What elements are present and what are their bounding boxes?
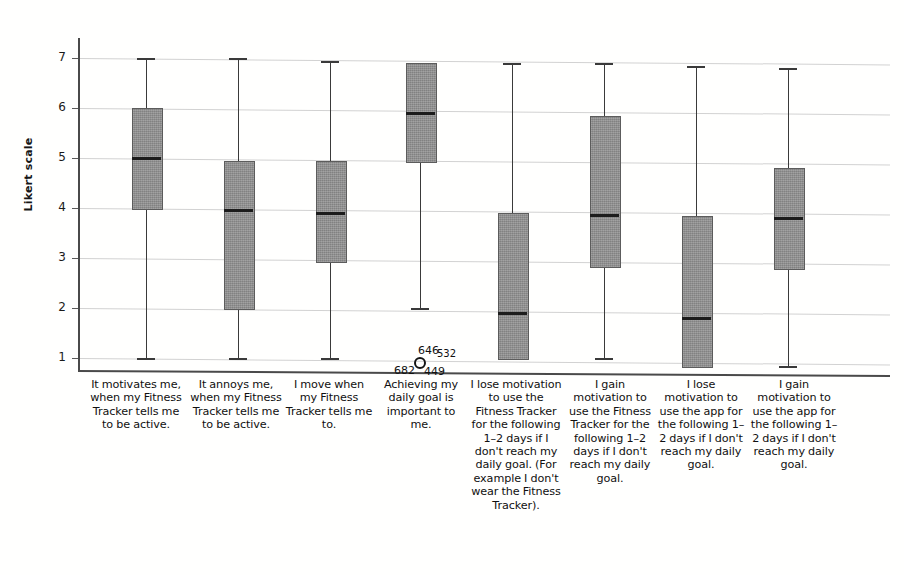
whisker-cap-upper-5 [503,63,521,65]
gridline-7 [78,58,890,65]
whisker-lower-2 [238,308,240,358]
category-label-3: I move when my Fitness Tracker tells me … [285,378,373,432]
whisker-cap-upper-6 [595,63,613,65]
whisker-lower-8 [788,268,790,366]
whisker-upper-1 [146,58,148,108]
boxplot-figure: Likert scale 7654321 646 532 682 449 It … [0,0,904,575]
median-line-6 [590,214,619,217]
y-tick-label-4: 4 [48,201,66,213]
whisker-upper-8 [788,68,790,168]
median-line-5 [498,312,527,315]
outlier-label-682: 682 [394,365,415,376]
whisker-cap-upper-2 [229,58,247,60]
x-axis-line [78,370,890,377]
y-tick-label-3: 3 [48,251,66,263]
whisker-upper-6 [604,63,606,116]
category-label-7: I lose motivation to use the app for the… [656,378,746,472]
y-axis-line [78,38,80,372]
median-line-2 [224,209,253,212]
median-line-3 [316,212,345,215]
whisker-upper-2 [238,58,240,161]
box-iqr-2[interactable] [224,161,255,311]
outlier-label-646: 646 [418,345,439,356]
y-tick-label-5: 5 [48,151,66,163]
category-label-5: I lose motivation to use the Fitness Tra… [468,378,564,512]
outlier-label-449: 449 [424,366,445,377]
category-label-6: I gain motivation to use the Fitness Tra… [564,378,656,485]
whisker-cap-upper-7 [687,66,705,68]
gridline-2 [78,308,890,315]
outlier-label-532: 532 [437,349,456,359]
whisker-cap-lower-4 [411,308,429,310]
gridline-3 [78,258,890,265]
whisker-lower-4 [420,161,422,309]
whisker-lower-3 [330,261,332,359]
y-tick-label-1: 1 [48,351,66,363]
whisker-cap-lower-1 [137,358,155,360]
gridline-1 [78,358,890,365]
whisker-cap-upper-8 [779,68,797,70]
median-line-4 [406,112,435,115]
gridline-6 [78,108,890,115]
category-label-4: Achieving my daily goal is important to … [376,378,466,432]
whisker-cap-upper-1 [137,58,155,60]
gridline-5 [78,158,890,165]
category-label-8: I gain motivation to use the app for the… [748,378,840,472]
median-line-7 [682,317,711,320]
whisker-upper-5 [512,63,514,213]
median-line-8 [774,217,803,220]
category-label-1: It motivates me, when my Fitness Tracker… [90,378,182,432]
whisker-cap-lower-8 [779,366,797,368]
category-label-2: It annoys me, when my Fitness Tracker te… [190,378,282,432]
whisker-cap-lower-2 [229,358,247,360]
whisker-cap-upper-3 [321,61,339,63]
whisker-lower-1 [146,208,148,358]
whisker-upper-7 [696,66,698,216]
y-tick-label-7: 7 [48,51,66,63]
y-tick-label-6: 6 [48,101,66,113]
median-line-1 [132,157,161,160]
whisker-cap-lower-6 [595,358,613,360]
whisker-upper-3 [330,61,332,161]
y-axis-title: Likert scale [22,138,35,212]
box-iqr-6[interactable] [590,116,621,268]
gridline-4 [78,208,890,215]
whisker-cap-lower-3 [321,358,339,360]
box-iqr-5[interactable] [498,213,529,360]
whisker-lower-6 [604,266,606,359]
y-tick-label-2: 2 [48,301,66,313]
box-iqr-7[interactable] [682,216,713,368]
